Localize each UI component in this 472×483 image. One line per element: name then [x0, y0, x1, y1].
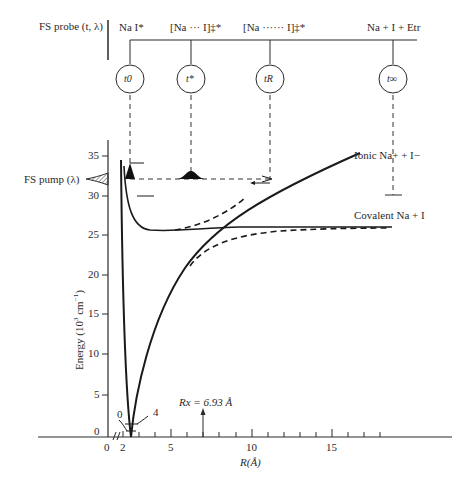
probe-label: FS probe (t, λ)	[39, 21, 103, 32]
rx-annotation: Rx = 6.93 Å	[179, 397, 232, 408]
ionic-curve	[121, 153, 360, 437]
y-tick-5: 5	[94, 389, 100, 400]
y-tick-20: 20	[88, 269, 99, 280]
x-tick-0: 0	[104, 442, 110, 453]
time-tinf: t∞	[387, 74, 397, 84]
vib-level-4-label: 4	[153, 407, 159, 418]
x-tick-15: 15	[326, 442, 337, 453]
y-tick-35: 35	[88, 150, 99, 161]
ionic-label: Ionic Na+ + I−	[354, 150, 420, 161]
state-label-t0: Na I*	[119, 22, 144, 33]
y-tick-10: 10	[88, 348, 99, 359]
x-tick-5: 5	[168, 442, 174, 453]
pump-spectrum-icon	[86, 173, 108, 185]
adiabatic-upper	[175, 198, 245, 230]
x-axis-label: R(Å)	[240, 457, 261, 468]
vib-level-0-label: 0	[117, 409, 123, 420]
time-tR: tR	[264, 74, 273, 84]
diagram-canvas	[0, 0, 472, 483]
wavepacket-tstar	[176, 171, 206, 179]
y-tick-25: 25	[88, 229, 99, 240]
x-tick-10: 10	[246, 442, 257, 453]
time-t0: t0	[124, 74, 132, 84]
covalent-curve	[124, 166, 392, 231]
y-tick-0: 0	[94, 426, 100, 437]
y-axis-label: Energy (103 cm−1)	[73, 290, 85, 370]
x-tick-2: 2	[120, 442, 126, 453]
state-label-tR: [Na ······ I]‡*	[243, 22, 305, 33]
y-tick-30: 30	[88, 190, 99, 201]
state-label-tstar: [Na ··· I]‡*	[170, 22, 221, 33]
pump-label: FS pump (λ)	[24, 174, 79, 185]
wavepacket-t0	[125, 163, 135, 179]
time-tstar: t*	[186, 74, 194, 84]
covalent-label: Covalent Na + I	[354, 210, 425, 221]
state-label-tinf: Na + I + Etr	[367, 22, 420, 33]
adiabatic-lower	[190, 228, 390, 266]
y-tick-15: 15	[88, 308, 99, 319]
